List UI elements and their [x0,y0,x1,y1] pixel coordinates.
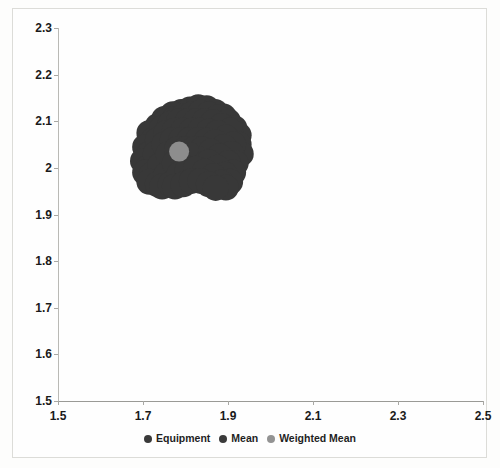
legend-marker-weighted-mean-icon [267,435,275,443]
legend-item-weighted-mean[interactable]: Weighted Mean [267,433,356,444]
legend-label-weighted-mean: Weighted Mean [279,433,356,444]
scatter-chart-figure: 2.32.22.121.91.81.71.61.5 1.51.71.92.12.… [0,0,500,468]
legend-item-mean[interactable]: Mean [219,433,258,444]
legend-marker-equipment-icon [144,435,152,443]
legend-label-equipment: Equipment [156,433,210,444]
legend-item-equipment[interactable]: Equipment [144,433,210,444]
legend-label-mean: Mean [231,433,258,444]
legend-marker-mean-icon [219,435,227,443]
data-point-cluster [0,0,500,468]
equipment-point [203,175,229,201]
chart-legend: Equipment Mean Weighted Mean [0,433,500,444]
weighted-mean-point [169,142,189,162]
